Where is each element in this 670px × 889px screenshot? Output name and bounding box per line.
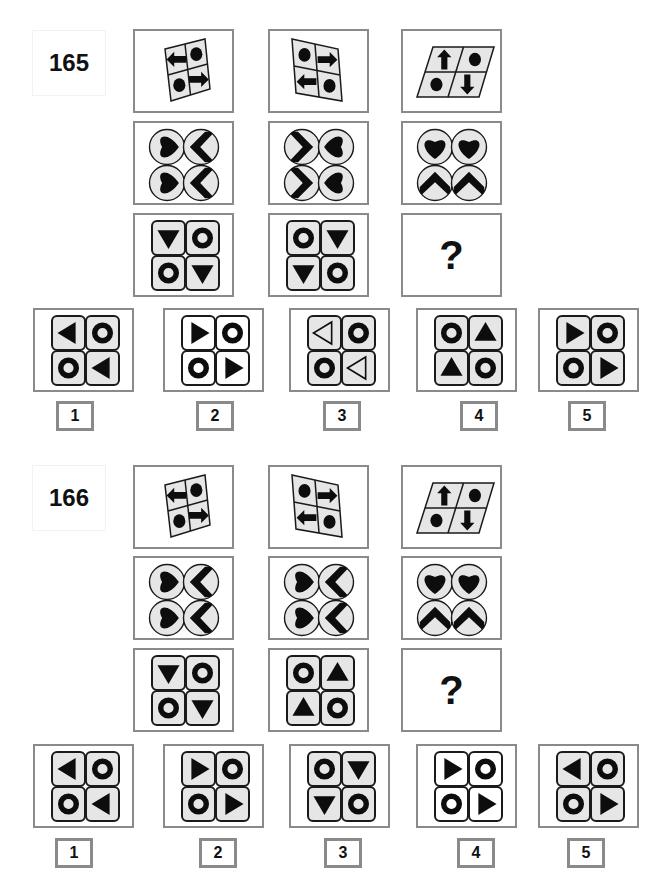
tile [186,221,219,255]
dot-icon [298,48,310,62]
matrix-cell-r2c3 [401,556,502,640]
figure [165,310,262,390]
figure [135,467,232,547]
dot-icon [173,514,185,528]
answer-option-5[interactable] [538,308,639,392]
figure [135,650,232,730]
puzzle-number-frame: 165 [32,30,106,96]
circle-frame [184,601,219,636]
option-label-2[interactable]: 2 [196,401,234,431]
option-label-3[interactable]: 3 [324,838,362,868]
option-label-3[interactable]: 3 [323,401,361,431]
dot-icon [190,47,202,61]
answer-option-1[interactable] [33,744,134,828]
matrix-cell-r1c2 [268,465,369,549]
puzzle-number: 166 [49,484,89,512]
tile [591,752,624,786]
dot-icon [469,53,481,67]
circle-frame [452,166,487,201]
tile [321,691,354,725]
answer-option-5[interactable] [538,744,639,828]
figure [135,123,232,203]
answer-option-4[interactable] [416,744,517,828]
tile [557,351,590,385]
figure [403,31,500,111]
dot-icon [430,514,442,528]
option-label-5[interactable]: 5 [568,401,606,431]
question-mark: ? [403,215,500,295]
matrix-cell-r1c1 [133,465,234,549]
figure [270,31,367,111]
tile [469,752,502,786]
dot-icon [173,78,185,92]
answer-option-2[interactable] [163,744,264,828]
figure [270,650,367,730]
circle-frame [184,565,219,600]
dot-icon [323,79,335,93]
missing-cell: ? [401,648,502,732]
figure [540,310,637,390]
tile [308,752,341,786]
figure [135,215,232,295]
answer-option-2[interactable] [163,308,264,392]
puzzle-number: 165 [49,49,89,77]
missing-cell: ? [401,213,502,297]
matrix-cell-r3c1 [133,213,234,297]
option-label-5[interactable]: 5 [567,838,605,868]
option-label-4[interactable]: 4 [460,401,498,431]
matrix-cell-r2c2 [268,556,369,640]
option-label-1[interactable]: 1 [55,838,93,868]
circle-frame [184,166,219,201]
answer-option-1[interactable] [33,308,134,392]
answer-option-3[interactable] [289,308,390,392]
figure [418,746,515,826]
tile [435,787,468,821]
matrix-cell-r1c3 [401,465,502,549]
answer-option-3[interactable] [289,744,390,828]
dot-icon [469,489,481,503]
tile [591,316,624,350]
tile [321,256,354,290]
matrix-cell-r1c1 [133,29,234,113]
circle-frame [319,601,354,636]
matrix-cell-r3c2 [268,648,369,732]
tile [182,787,215,821]
tile [52,351,85,385]
figure [135,31,232,111]
option-label-1[interactable]: 1 [56,401,94,431]
figure [418,310,515,390]
tile [152,691,185,725]
tile [182,351,215,385]
figure [270,558,367,638]
tile [342,787,375,821]
option-label-4[interactable]: 4 [457,838,495,868]
option-label-2[interactable]: 2 [199,838,237,868]
matrix-cell-r2c3 [401,121,502,205]
tile [308,351,341,385]
matrix-cell-r2c1 [133,121,234,205]
figure [403,558,500,638]
tile [469,351,502,385]
dot-icon [323,515,335,529]
circle-frame [418,601,453,636]
circle-frame [184,130,219,165]
question-mark: ? [403,650,500,730]
tile [86,752,119,786]
matrix-cell-r3c1 [133,648,234,732]
figure [291,746,388,826]
figure [270,123,367,203]
tile [152,256,185,290]
matrix-cell-r2c1 [133,556,234,640]
tile [86,316,119,350]
figure [540,746,637,826]
matrix-cell-r1c2 [268,29,369,113]
figure [35,746,132,826]
circle-frame [285,166,320,201]
figure [403,123,500,203]
answer-option-4[interactable] [416,308,517,392]
tile [557,787,590,821]
puzzle-number-frame: 166 [32,465,106,531]
circle-frame [452,601,487,636]
figure [135,558,232,638]
figure [403,467,500,547]
